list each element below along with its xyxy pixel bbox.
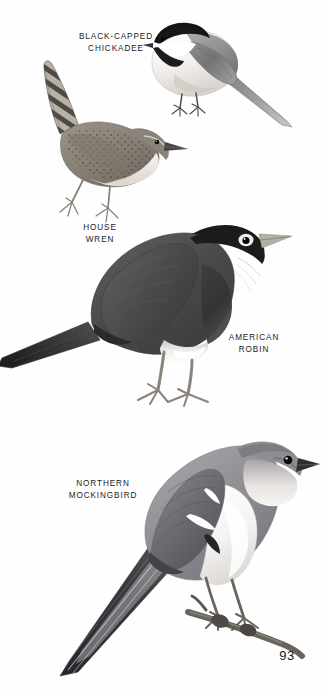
label-house-wren: HOUSE WREN (58, 222, 142, 245)
page-number: 93 (272, 648, 302, 663)
robin-eye (242, 237, 249, 244)
wren-eye (155, 140, 160, 145)
label-northern-mockingbird: NORTHERN MOCKINGBIRD (48, 478, 158, 501)
label-american-robin: AMERICAN ROBIN (206, 332, 302, 355)
illustration-american-robin (0, 172, 296, 407)
mockingbird-branch (188, 596, 302, 656)
wren-tail (44, 61, 78, 134)
mockingbird-tail (60, 548, 170, 676)
illustration-northern-mockingbird (20, 388, 320, 688)
robin-bill (259, 234, 292, 248)
field-guide-plate: BLACK-CAPPED CHICKADEE HOUSE WREN AMERIC… (0, 0, 324, 692)
wren-bill (164, 142, 188, 151)
label-black-capped-chickadee: BLACK-CAPPED CHICKADEE (62, 31, 170, 54)
mockingbird-eye (284, 456, 293, 465)
robin-tail (0, 322, 100, 368)
